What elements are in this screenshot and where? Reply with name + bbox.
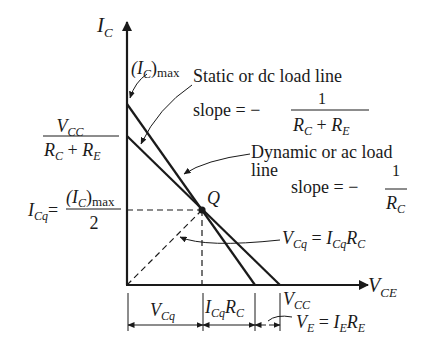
ac-load-line-title-2: line — [251, 160, 278, 180]
ve-equation: VE = IERE — [296, 312, 366, 335]
load-line-diagram: IC VCE (IC)max Static or dc load line sl… — [0, 0, 447, 349]
dc-slope-numerator: 1 — [318, 90, 326, 107]
icq-label: ICq= — [27, 200, 58, 223]
vcc-fraction-denominator: RC + RE — [43, 140, 101, 163]
ac-load-line-title: Dynamic or ac load — [251, 142, 392, 162]
dc-slope-label: slope = − — [193, 100, 260, 120]
dim-vcc-label: VCC — [283, 289, 311, 312]
vcq-angle-leader — [180, 237, 280, 243]
icq-fraction-denominator: 2 — [90, 213, 99, 233]
q-point-label: Q — [207, 188, 220, 208]
dc-slope-denominator: RC + RE — [292, 115, 350, 138]
y-axis-label: IC — [96, 13, 113, 40]
dc-load-line-title: Static or dc load line — [193, 66, 342, 86]
q-point-marker — [198, 206, 205, 213]
ac-line-leader — [184, 154, 250, 174]
dim-vcq-label: VCq — [150, 300, 175, 323]
origin-q-guide-line — [127, 210, 202, 285]
ac-slope-label: slope = − — [291, 177, 358, 197]
dim-icqrc-label: ICqRC — [204, 297, 245, 320]
ac-load-line — [127, 104, 255, 285]
ac-slope-denominator: RC — [385, 193, 406, 216]
ic-max-label: (IC)max — [131, 58, 180, 81]
x-axis-label: VCE — [368, 274, 397, 300]
vcq-equation: VCq = ICqRC — [282, 228, 366, 251]
ac-slope-numerator: 1 — [392, 162, 400, 179]
icq-fraction-numerator: (IC)max — [66, 187, 115, 210]
